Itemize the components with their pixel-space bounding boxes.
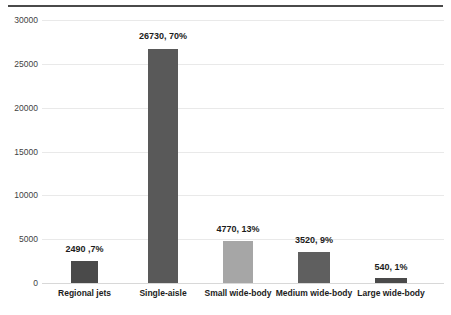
y-axis-tick-labels: 0 5000 10000 15000 20000 25000 30000: [0, 20, 38, 283]
plot-area: 2490 ,7% 26730, 70% 4770, 13% 3520, 9% 5…: [42, 20, 444, 283]
gridline-20000: [42, 108, 444, 109]
x-axis-label-large-wide-body: Large wide-body: [357, 288, 425, 298]
y-axis-tick-0: 0: [0, 278, 38, 288]
x-axis-category-labels: Regional jets Single-aisle Small wide-bo…: [42, 288, 444, 308]
y-axis-tick-5000: 5000: [0, 234, 38, 244]
x-axis-label-small-wide-body: Small wide-body: [204, 288, 271, 298]
bar-single-aisle[interactable]: [148, 49, 178, 283]
gridline-10000: [42, 195, 444, 196]
y-axis-tick-10000: 10000: [0, 190, 38, 200]
x-axis-label-single-aisle: Single-aisle: [139, 288, 186, 298]
data-label-single-aisle: 26730, 70%: [139, 31, 187, 41]
y-axis-tick-30000: 30000: [0, 15, 38, 25]
bar-large-wide-body[interactable]: [375, 278, 407, 283]
y-axis-tick-15000: 15000: [0, 147, 38, 157]
gridline-30000: [42, 20, 444, 21]
gridline-25000: [42, 64, 444, 65]
data-label-small-wide-body: 4770, 13%: [216, 224, 259, 234]
data-label-large-wide-body: 540, 1%: [374, 262, 407, 272]
bar-chart: 0 5000 10000 15000 20000 25000 30000 249…: [0, 0, 451, 315]
gridline-15000: [42, 152, 444, 153]
data-label-medium-wide-body: 3520, 9%: [295, 235, 333, 245]
x-axis-label-regional-jets: Regional jets: [58, 288, 111, 298]
y-axis-tick-20000: 20000: [0, 103, 38, 113]
gridline-zero-baseline: [42, 283, 444, 284]
bar-regional-jets[interactable]: [71, 261, 98, 283]
gridline-5000: [42, 239, 444, 240]
y-axis-tick-25000: 25000: [0, 59, 38, 69]
x-axis-label-medium-wide-body: Medium wide-body: [276, 288, 353, 298]
bar-medium-wide-body[interactable]: [298, 252, 330, 283]
top-divider-rule: [8, 5, 443, 7]
data-label-regional-jets: 2490 ,7%: [65, 244, 103, 254]
bar-small-wide-body[interactable]: [223, 241, 253, 283]
